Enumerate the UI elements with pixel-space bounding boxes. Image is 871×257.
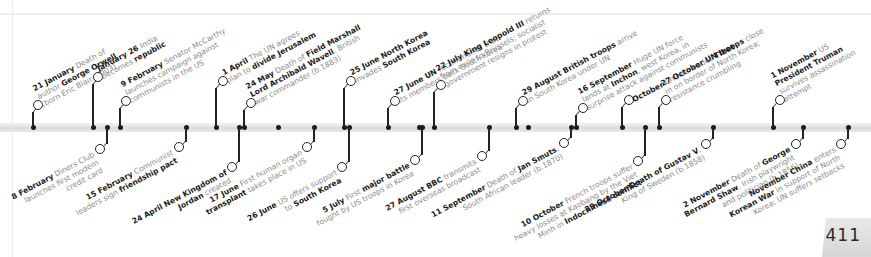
connector-stem — [92, 84, 93, 127]
timeline-dot — [526, 125, 531, 130]
event-text: South African leader (b.1870) — [461, 152, 564, 213]
event-label-line: from exile to Brussels; socialist — [439, 13, 556, 81]
connector-stem — [387, 108, 388, 127]
page-top-rule — [0, 13, 871, 15]
connector-stem — [658, 107, 659, 127]
event-marker-ring — [559, 138, 569, 148]
timeline-dot — [417, 125, 422, 130]
connector-stem — [433, 92, 434, 127]
connector-stem — [119, 108, 120, 127]
connector-stem — [772, 107, 773, 127]
connector-stem — [243, 110, 244, 127]
connector-stem — [348, 127, 349, 162]
event-marker-ring — [633, 156, 643, 166]
event-text: from exile to Brussels; socialist — [439, 18, 547, 81]
connector-stem — [488, 127, 489, 151]
event-marker-ring — [701, 139, 711, 149]
event-marker-ring — [227, 162, 237, 172]
event-marker-ring — [477, 151, 487, 161]
connector-stem — [421, 127, 422, 155]
event-marker-ring — [337, 162, 347, 172]
event-marker-ring — [836, 139, 846, 149]
connector-stem — [575, 115, 576, 127]
event-marker-ring — [95, 144, 105, 154]
event-marker-ring — [791, 139, 801, 149]
connector-stem — [106, 127, 107, 144]
connector-stem — [238, 127, 239, 162]
event-label: 1 November USPresident Trumansurvives as… — [769, 32, 861, 104]
event-label: 9 February Senator McCarthylaunches camp… — [119, 26, 235, 105]
page-number: 411 — [826, 225, 861, 245]
event-marker-ring — [410, 155, 420, 165]
event-marker-ring — [302, 142, 312, 152]
connector-stem — [621, 107, 622, 127]
connector-stem — [313, 127, 314, 142]
connector-stem — [32, 112, 33, 127]
event-marker-ring — [174, 142, 184, 152]
connector-stem — [215, 88, 216, 127]
connector-stem — [343, 88, 344, 127]
connector-stem — [515, 108, 516, 127]
connector-stem — [644, 127, 645, 156]
event-label: 22 July King Leopold III returnsfrom exi… — [434, 5, 560, 89]
connector-stem — [185, 127, 186, 142]
page-number-tab: 411 — [822, 218, 871, 257]
timeline-dot — [276, 125, 281, 130]
